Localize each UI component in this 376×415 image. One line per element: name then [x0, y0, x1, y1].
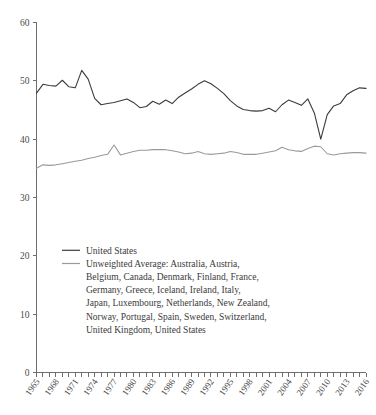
x-tick-label: 2004	[275, 377, 294, 398]
legend-label: United Kingdom, United States	[86, 325, 206, 335]
x-axis-labels: 1965196819711974197719801983198619891992…	[23, 377, 371, 398]
x-tick-label: 1968	[43, 377, 62, 398]
series-line-unweighted-average	[37, 145, 367, 168]
y-tick-label: 30	[20, 193, 30, 203]
x-axis-ticks	[37, 373, 367, 377]
x-tick-label: 1971	[62, 377, 81, 397]
x-axis: 1965196819711974197719801983198619891992…	[23, 373, 371, 398]
legend-label: Japan, Luxembourg, Netherlands, New Zeal…	[86, 298, 270, 308]
x-tick-label: 2016	[353, 377, 372, 398]
y-tick-label: 60	[20, 18, 30, 28]
y-tick-label: 40	[20, 135, 30, 145]
legend-label: Unweighted Average: Australia, Austria,	[86, 259, 240, 269]
x-tick-label: 1983	[139, 377, 158, 398]
x-tick-label: 1998	[236, 377, 255, 398]
y-axis: 0102030405060	[20, 18, 37, 378]
x-tick-label: 2007	[294, 377, 313, 398]
y-tick-label: 20	[20, 251, 30, 261]
x-tick-label: 2010	[314, 377, 333, 398]
chart-legend: United StatesUnweighted Average: Austral…	[62, 246, 270, 335]
legend-label: Norway, Portugal, Spain, Sweden, Switzer…	[86, 312, 267, 322]
x-tick-label: 1995	[217, 377, 236, 398]
y-axis-ticks: 0102030405060	[20, 18, 37, 378]
series-line-united-states	[37, 70, 367, 139]
line-chart: 0102030405060 19651968197119741977198019…	[0, 0, 376, 415]
legend-label: United States	[86, 246, 137, 256]
x-tick-label: 1992	[198, 377, 217, 397]
x-tick-label: 1989	[178, 377, 197, 398]
x-tick-label: 1986	[159, 377, 178, 398]
x-tick-label: 1965	[23, 377, 42, 398]
x-tick-label: 2001	[256, 377, 275, 397]
x-tick-label: 1977	[101, 377, 120, 398]
y-tick-label: 10	[20, 310, 30, 320]
y-tick-label: 50	[20, 76, 30, 86]
legend-label: Germany, Greece, Iceland, Ireland, Italy…	[86, 285, 241, 295]
legend-label: Belgium, Canada, Denmark, Finland, Franc…	[86, 272, 259, 282]
x-tick-label: 1974	[81, 377, 100, 398]
x-tick-label: 2013	[333, 377, 352, 398]
plot-series-group	[37, 70, 367, 168]
y-tick-label: 0	[25, 368, 30, 378]
x-tick-label: 1980	[120, 377, 139, 398]
chart-svg: 0102030405060 19651968197119741977198019…	[0, 0, 376, 415]
